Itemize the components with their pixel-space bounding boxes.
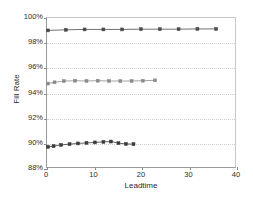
data-point-marker (85, 79, 88, 82)
data-point-marker (121, 28, 124, 31)
y-tick-label: 94% (1, 89, 43, 97)
data-point-marker (102, 28, 105, 31)
plot-area (46, 17, 236, 168)
data-point-marker (140, 28, 143, 31)
x-axis-tick-labels: 010203040 (46, 171, 236, 181)
chart-container: Fill Rate 88%90%92%94%96%98%100% 0102030… (0, 0, 253, 199)
x-tick-label: 0 (33, 171, 59, 179)
data-point-marker (141, 79, 144, 82)
data-point-marker (117, 142, 120, 145)
data-point-marker (46, 145, 49, 148)
data-point-marker (52, 145, 55, 148)
y-tick-label: 90% (1, 139, 43, 147)
y-tick-label: 96% (1, 63, 43, 71)
series-bottom-series (46, 140, 135, 148)
data-point-marker (83, 28, 86, 31)
x-tick-label: 10 (81, 171, 107, 179)
y-tick-label: 92% (1, 114, 43, 122)
data-point-marker (53, 81, 56, 84)
data-point-marker (68, 143, 71, 146)
data-point-marker (96, 79, 99, 82)
series-top-series (46, 27, 217, 31)
data-point-marker (215, 27, 218, 30)
data-point-marker (60, 143, 63, 146)
data-point-marker (102, 140, 105, 143)
data-point-marker (74, 79, 77, 82)
data-point-marker (154, 79, 157, 82)
x-axis-title: Leadtime (46, 181, 236, 190)
plot-inner (47, 18, 235, 167)
data-point-marker (93, 141, 96, 144)
series-layer (47, 18, 235, 167)
data-point-marker (177, 28, 180, 31)
data-point-marker (77, 142, 80, 145)
data-point-marker (109, 140, 112, 143)
y-tick-label: 100% (1, 13, 43, 21)
data-point-marker (130, 79, 133, 82)
data-point-marker (132, 143, 135, 146)
x-tick-label: 20 (128, 171, 154, 179)
y-axis-tick-labels: 88%90%92%94%96%98%100% (0, 17, 43, 168)
series-line (48, 29, 216, 30)
series-middle-series (46, 79, 156, 85)
data-point-marker (119, 80, 122, 83)
data-point-marker (64, 28, 67, 31)
data-point-marker (158, 28, 161, 31)
data-point-marker (46, 82, 49, 85)
y-tick-label: 98% (1, 38, 43, 46)
data-point-marker (108, 79, 111, 82)
data-point-marker (46, 29, 49, 32)
data-point-marker (124, 142, 127, 145)
data-point-marker (85, 141, 88, 144)
data-point-marker (62, 80, 65, 83)
data-point-marker (196, 27, 199, 30)
x-tick-label: 30 (176, 171, 202, 179)
x-tick-label: 40 (223, 171, 249, 179)
